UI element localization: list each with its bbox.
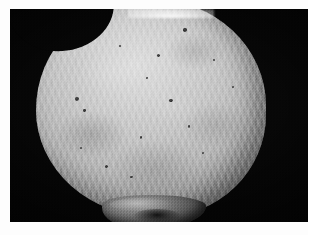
specimen-description: Rounded pale ovoid specimen photographed… [0,0,1,1]
specimen-photograph [10,9,308,222]
foramen [119,45,121,47]
foramen [157,54,160,57]
top-specular-flare [128,9,214,18]
foramen [80,147,82,149]
foramen [183,28,186,31]
foramen [202,152,204,154]
foramen [232,86,234,88]
page: Rounded pale ovoid specimen photographed… [0,0,312,235]
foramen [140,136,143,139]
specimen [36,9,266,217]
foramen [188,125,190,127]
protrusion-cleft [133,209,181,222]
foramen [83,109,86,112]
sheet-edge [308,0,312,235]
foramen [105,165,108,168]
inferior-protrusion [102,195,206,222]
foramen [130,176,132,178]
